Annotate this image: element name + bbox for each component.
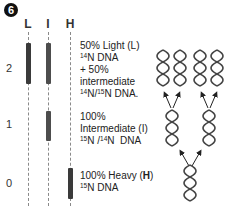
desc-line: intermediate	[80, 76, 139, 88]
band-gen2-intermediate	[46, 43, 51, 84]
desc-line: 14N DNA	[80, 52, 139, 64]
desc-text: N DNA	[87, 182, 118, 193]
desc-line: 14N/15N DNA.	[80, 88, 139, 100]
arrow-icon	[173, 94, 179, 108]
arrow-icon	[202, 94, 208, 108]
desc-text: N /	[87, 135, 100, 146]
dna-helix-icon	[194, 50, 206, 86]
generation-1-description: 100% Intermediate (I) 15N /14N DNA	[80, 111, 148, 147]
dna-replication-diagram	[140, 40, 231, 210]
desc-line: 50% Light (L)	[80, 40, 139, 52]
dna-helix-icon	[166, 110, 178, 146]
desc-line: Intermediate (I)	[80, 123, 148, 135]
arrow-icon	[181, 152, 189, 166]
desc-text: N DNA	[87, 52, 118, 63]
arrow-icon	[165, 94, 171, 108]
dna-helix-icon	[203, 110, 215, 146]
desc-line: + 50%	[80, 64, 139, 76]
column-header-light: L	[22, 17, 34, 31]
desc-text: 100% Heavy (	[80, 170, 143, 181]
column-header-heavy: H	[64, 17, 76, 31]
dna-helix-icon	[157, 50, 169, 86]
band-gen2-light	[26, 43, 31, 84]
desc-text: N/	[87, 88, 97, 99]
arrow-icon	[192, 152, 200, 166]
band-gen0-heavy	[68, 168, 73, 199]
column-header-intermediate: I	[42, 17, 54, 31]
generation-label-2: 2	[6, 62, 12, 74]
desc-line: 100%	[80, 111, 148, 123]
desc-line: 15N /14N DNA	[80, 135, 148, 147]
panel-number-badge: 6	[4, 3, 18, 17]
dna-helix-icon	[184, 165, 196, 201]
dna-helix-icon	[211, 50, 223, 86]
generation-label-1: 1	[6, 118, 12, 130]
dna-helix-icon	[174, 50, 186, 86]
band-gen1-intermediate	[46, 111, 51, 141]
arrow-icon	[210, 94, 216, 108]
desc-text: N DNA.	[104, 88, 138, 99]
desc-text: N DNA	[107, 135, 141, 146]
generation-2-description: 50% Light (L) 14N DNA + 50% intermediate…	[80, 40, 139, 100]
generation-label-0: 0	[6, 177, 12, 189]
